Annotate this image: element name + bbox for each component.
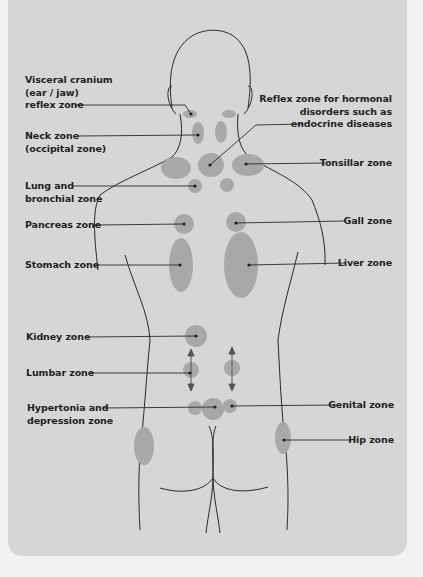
label-lung-bronchial: Lung and bronchial zone (25, 180, 102, 205)
label-visceral-cranium: Visceral cranium (ear / jaw) reflex zone (25, 74, 113, 112)
label-hypertonia-depression: Hypertonia and depression zone (27, 402, 113, 427)
label-gall: Gall zone (344, 215, 392, 228)
label-hormonal: Reflex zone for hormonal disorders such … (259, 93, 392, 131)
label-hip: Hip zone (348, 434, 394, 447)
label-lumbar: Lumbar zone (26, 367, 94, 380)
label-pancreas: Pancreas zone (25, 219, 101, 232)
label-stomach: Stomach zone (25, 259, 99, 272)
label-tonsillar: Tonsillar zone (320, 157, 392, 170)
label-liver: Liver zone (338, 257, 392, 270)
label-genital: Genital zone (328, 399, 394, 412)
label-kidney: Kidney zone (26, 331, 90, 344)
label-neck-zone: Neck zone (occipital zone) (25, 130, 106, 155)
